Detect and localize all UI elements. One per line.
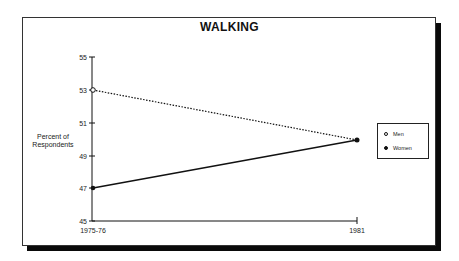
x-tick-labels: 1975-76 1981 [80, 227, 365, 234]
y-tick-label: 45 [79, 218, 87, 225]
x-tick-label: 1981 [349, 227, 365, 234]
open-circle-icon [384, 132, 388, 136]
legend-label-men: Men [393, 131, 404, 137]
marker-men-1975 [91, 88, 96, 93]
x-tick-label: 1975-76 [80, 227, 106, 234]
y-tick-label: 55 [79, 54, 87, 61]
marker-1981 [355, 138, 360, 143]
legend: Men Women [377, 123, 429, 159]
series-women-line [93, 140, 357, 188]
y-tick-label: 47 [79, 185, 87, 192]
series-men-line [93, 90, 357, 140]
legend-label-women: Women [393, 145, 412, 151]
y-tick-label: 51 [79, 120, 87, 127]
legend-item-women: Women [384, 145, 412, 151]
filled-circle-icon [384, 146, 388, 150]
y-tick-labels: 55 53 51 49 47 45 [79, 54, 87, 225]
marker-women-1975 [91, 186, 96, 191]
y-tick-label: 49 [79, 153, 87, 160]
legend-item-men: Men [384, 131, 404, 137]
y-tick-label: 53 [79, 87, 87, 94]
